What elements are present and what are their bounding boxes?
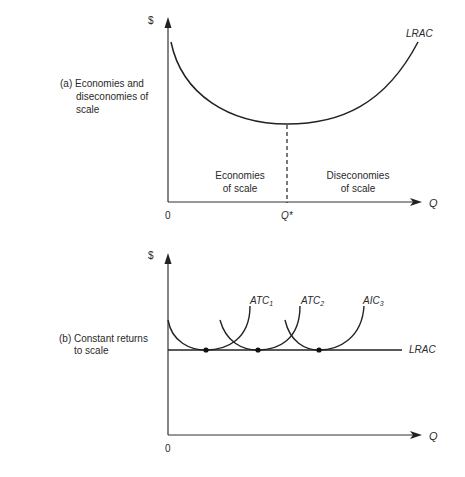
atc1-base: ATC xyxy=(250,295,269,306)
panel-a-x-axis-label: Q xyxy=(429,197,438,209)
panel-b-atc1-label: ATC1 xyxy=(250,295,273,310)
atc3-subscript: 3 xyxy=(380,300,384,307)
atc3-base: AIC xyxy=(363,295,380,306)
panel-b-y-arrow-icon xyxy=(165,253,172,264)
panel-b-axes xyxy=(165,253,423,439)
panel-b-tangency-point-3 xyxy=(316,347,321,352)
panel-a-lrac-curve xyxy=(171,42,418,124)
panel-a-caption-line1: (a) Economies and xyxy=(60,78,144,90)
panel-b-tangency-point-2 xyxy=(255,347,260,352)
panel-a-region-left-line1: Economies xyxy=(200,170,280,182)
atc1-subscript: 1 xyxy=(269,300,273,307)
panel-a-qstar-label: Q* xyxy=(281,210,293,222)
panel-a-lrac-label: LRAC xyxy=(406,28,433,40)
panel-b-caption-line1: (b) Constant returns xyxy=(59,333,148,345)
panel-b-atc2-label: ATC2 xyxy=(301,295,324,310)
panel-b-x-axis-label: Q xyxy=(429,430,438,442)
panel-b-y-axis-label: $ xyxy=(148,250,154,262)
panel-a-region-left-line2: of scale xyxy=(200,183,280,195)
panel-b-atc1-curve xyxy=(168,306,250,350)
panel-a-region-right-line2: of scale xyxy=(313,183,403,195)
panel-a-caption-line3: scale xyxy=(76,104,99,116)
panel-a-y-arrow-icon xyxy=(165,17,172,28)
panel-b-caption-line2: to scale xyxy=(74,345,108,357)
panel-a-y-axis-label: $ xyxy=(148,15,154,27)
panel-b-tangency-point-1 xyxy=(203,347,208,352)
panel-a-origin-label: 0 xyxy=(165,210,171,222)
panel-b-origin-label: 0 xyxy=(165,443,171,455)
panel-b-atc3-label: AIC3 xyxy=(363,295,384,310)
atc2-base: ATC xyxy=(301,295,320,306)
panel-b-lrac-label: LRAC xyxy=(409,344,436,356)
atc2-subscript: 2 xyxy=(320,300,324,307)
panel-a-region-right-line1: Diseconomies xyxy=(313,170,403,182)
diagram-canvas xyxy=(0,0,465,477)
panel-b-atc3-curve xyxy=(285,306,364,350)
panel-a-caption-line2: diseconomies of xyxy=(76,91,148,103)
